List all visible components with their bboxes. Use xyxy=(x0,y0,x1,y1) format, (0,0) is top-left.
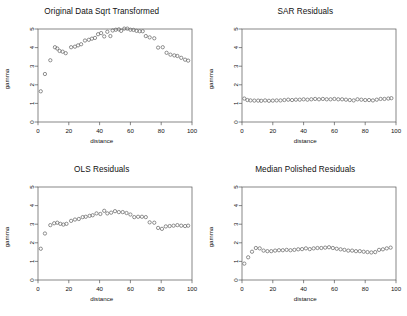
y-tick-label: 0 xyxy=(232,120,239,124)
y-tick-label: 4 xyxy=(232,203,239,207)
panel-ols-residuals: OLS Residuals 020406080100012345 distanc… xyxy=(0,158,204,316)
data-point xyxy=(378,97,381,100)
data-point xyxy=(93,36,96,39)
y-axis-title: gamma xyxy=(3,227,10,248)
data-point xyxy=(332,97,335,100)
data-point xyxy=(331,246,334,249)
panel-original-data-sqrt-transformed: Original Data Sqrt Transformed 020406080… xyxy=(0,0,204,158)
x-tick-label: 80 xyxy=(361,285,368,292)
data-point xyxy=(317,98,320,101)
data-point xyxy=(365,250,368,253)
data-point xyxy=(382,97,385,100)
y-tick-label: 5 xyxy=(28,27,35,31)
data-point xyxy=(300,247,303,250)
data-point xyxy=(161,46,164,49)
y-tick-label: 3 xyxy=(232,64,239,68)
data-point xyxy=(290,98,293,101)
data-point xyxy=(49,223,52,226)
x-tick-label: 80 xyxy=(158,127,165,134)
plot-area-0: 020406080100012345 xyxy=(0,0,204,158)
y-axis-title: gamma xyxy=(3,69,10,90)
data-point xyxy=(319,246,322,249)
data-point xyxy=(129,213,132,216)
data-point xyxy=(285,248,288,251)
data-point xyxy=(180,56,183,59)
x-tick-label: 80 xyxy=(158,285,165,292)
data-point xyxy=(125,211,128,214)
data-point xyxy=(311,247,314,250)
data-point xyxy=(160,227,163,230)
data-series xyxy=(242,246,392,266)
panel-median-polished-residuals: Median Polished Residuals 02040608010001… xyxy=(204,158,407,316)
y-axis-title: gamma xyxy=(206,69,213,90)
data-point xyxy=(340,98,343,101)
figure-panel-grid: Original Data Sqrt Transformed 020406080… xyxy=(0,0,407,316)
data-point xyxy=(133,215,136,218)
data-point xyxy=(381,248,384,251)
x-tick-label: 0 xyxy=(36,127,40,134)
data-point xyxy=(352,99,355,102)
data-series xyxy=(242,97,392,103)
data-point xyxy=(354,250,357,253)
data-point xyxy=(321,97,324,100)
x-tick-label: 0 xyxy=(36,285,40,292)
data-point xyxy=(113,210,116,213)
y-tick-label: 3 xyxy=(28,222,35,226)
y-axis-title: gamma xyxy=(206,227,213,248)
y-tick-label: 0 xyxy=(28,120,35,124)
y-tick-label: 3 xyxy=(232,222,239,226)
data-point xyxy=(176,223,179,226)
x-axis-title: distance xyxy=(0,137,204,144)
data-point xyxy=(187,59,190,62)
data-point xyxy=(278,99,281,102)
data-point xyxy=(153,37,156,40)
y-tick-label: 2 xyxy=(28,82,35,86)
data-point xyxy=(144,215,147,218)
data-point xyxy=(106,30,109,33)
data-point xyxy=(140,215,143,218)
data-point xyxy=(106,212,109,215)
y-tick-label: 5 xyxy=(232,27,239,31)
plot-frame xyxy=(242,29,396,122)
data-point xyxy=(338,248,341,251)
panel-sar-residuals: SAR Residuals 020406080100012345 distanc… xyxy=(204,0,407,158)
x-tick-label: 40 xyxy=(300,127,307,134)
data-point xyxy=(275,99,278,102)
data-point xyxy=(169,53,172,56)
data-series xyxy=(39,27,190,93)
data-point xyxy=(327,246,330,249)
data-point xyxy=(267,99,270,102)
data-point xyxy=(296,248,299,251)
data-point xyxy=(298,98,301,101)
data-point xyxy=(265,250,268,253)
data-point xyxy=(180,224,183,227)
y-tick-label: 2 xyxy=(232,82,239,86)
data-point xyxy=(153,221,156,224)
data-point xyxy=(344,98,347,101)
data-point xyxy=(377,248,380,251)
data-point xyxy=(258,247,261,250)
data-point xyxy=(348,98,351,101)
data-point xyxy=(305,98,308,101)
data-point xyxy=(103,35,106,38)
data-point xyxy=(95,212,98,215)
data-point xyxy=(362,250,365,253)
data-point xyxy=(309,98,312,101)
data-point xyxy=(323,246,326,249)
y-tick-label: 5 xyxy=(232,185,239,189)
y-tick-label: 1 xyxy=(28,101,35,105)
data-point xyxy=(342,248,345,251)
data-point xyxy=(77,217,80,220)
data-point xyxy=(110,211,113,214)
x-tick-label: 40 xyxy=(96,127,103,134)
data-point xyxy=(109,34,112,37)
x-tick-label: 100 xyxy=(390,127,401,134)
y-tick-label: 4 xyxy=(232,45,239,49)
data-point xyxy=(388,246,391,249)
data-point xyxy=(168,224,171,227)
data-point xyxy=(271,99,274,102)
data-point xyxy=(246,256,249,259)
data-point xyxy=(277,249,280,252)
data-point xyxy=(172,224,175,227)
data-point xyxy=(294,98,297,101)
